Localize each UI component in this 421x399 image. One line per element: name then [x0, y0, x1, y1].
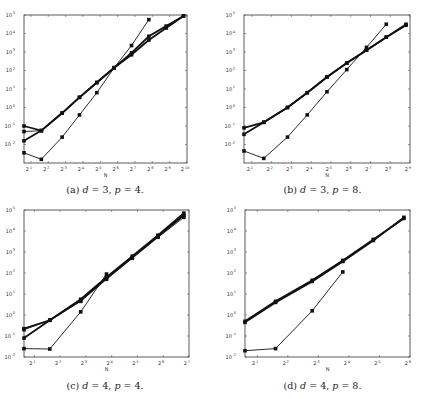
y-tick-label: 103: [227, 248, 236, 255]
y-tick-label: 10-2: [226, 353, 236, 360]
data-point-marker: [274, 347, 278, 351]
y-tick-label: 105: [227, 206, 236, 213]
data-point-marker: [372, 239, 376, 243]
x-tick-label: 21: [252, 360, 258, 367]
chart-d: 21222324252610-210-1100101102103104105N: [0, 0, 421, 380]
x-tick-label: 24: [344, 360, 351, 367]
series-line: [245, 217, 404, 322]
y-tick-label: 101: [227, 290, 236, 297]
data-point-marker: [310, 280, 314, 284]
data-point-marker: [243, 321, 247, 325]
y-tick-label: 102: [227, 269, 236, 276]
data-point-marker: [341, 260, 345, 264]
y-tick-label: 104: [227, 227, 237, 234]
data-point-marker: [402, 216, 406, 220]
x-tick-label: 22: [283, 360, 289, 367]
data-point-marker: [341, 270, 345, 274]
y-tick-label: 100: [227, 311, 237, 318]
data-point-marker: [243, 349, 247, 353]
data-point-marker: [310, 309, 314, 313]
x-tick-label: 23: [313, 360, 319, 367]
x-axis-label: N: [326, 366, 330, 372]
x-tick-label: 26: [405, 360, 412, 367]
x-tick-label: 25: [374, 360, 380, 367]
caption-d: (d) d = 4, p = 8.: [224, 380, 421, 391]
y-tick-label: 10-1: [226, 332, 236, 339]
data-point-marker: [274, 301, 278, 305]
panel-d: 21222324252610-210-1100101102103104105N …: [0, 0, 421, 399]
